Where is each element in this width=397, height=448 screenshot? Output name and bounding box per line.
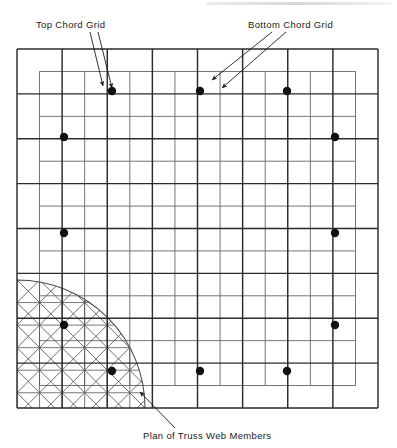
column-support-nodes [60, 87, 339, 375]
truss-plan-diagram [0, 0, 397, 448]
label-bottom-chord-grid: Bottom Chord Grid [248, 19, 333, 30]
caption-plan-of-truss-web-members: Plan of Truss Web Members [143, 430, 271, 441]
top-chord-grid [17, 49, 378, 408]
label-top-chord-grid: Top Chord Grid [36, 19, 105, 30]
annotation-leader-lines [90, 32, 286, 428]
